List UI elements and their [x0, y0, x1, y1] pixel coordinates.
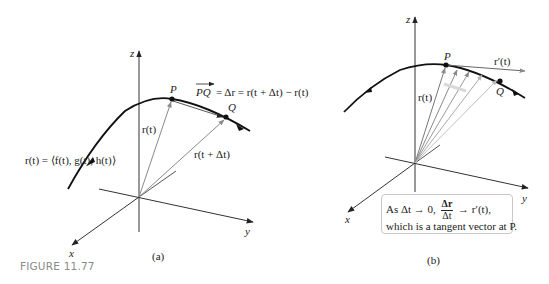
curve-direction-arrow-b1 — [364, 87, 372, 93]
x-axis-a — [72, 197, 139, 245]
figure-canvas — [0, 0, 549, 284]
note-suffix: → r′(t), — [458, 203, 491, 215]
panel-b — [344, 17, 528, 212]
point-p-a — [169, 96, 174, 101]
y-axis-label-a: y — [245, 226, 250, 237]
point-q-b — [497, 78, 502, 83]
vector-pq-a — [173, 101, 223, 117]
z-axis-label-b: z — [406, 14, 410, 25]
x-axis-label-a: x — [69, 248, 74, 259]
vector-r-prime-label-b: r′(t) — [494, 56, 510, 67]
curve-direction-arrow-b2 — [512, 89, 519, 96]
delta-r-over-delta-t: Δr Δt — [441, 199, 454, 221]
note-line-1: As Δt → 0, Δr Δt → r′(t), — [386, 199, 491, 221]
vector-r-t-label-b: r(t) — [418, 92, 432, 103]
curve-label-a: r(t) = ⟨f(t), g(t), h(t)⟩ — [25, 155, 116, 166]
frac-numerator: Δr — [441, 199, 454, 211]
curve-a — [68, 98, 250, 189]
pq-equation-rhs: = Δr = r(t + Δt) − r(t) — [216, 87, 308, 98]
point-p-label-b: P — [444, 51, 451, 62]
note-line-2: which is a tangent vector at P. — [386, 220, 517, 232]
point-q-a — [223, 114, 228, 119]
point-q-label-a: Q — [228, 102, 236, 113]
x-axis-back-a — [139, 171, 176, 197]
point-p-b — [443, 62, 448, 67]
chord-arrows-b — [444, 84, 466, 91]
y-axis-a — [99, 189, 253, 222]
vector-r-t-label-a: r(t) — [142, 124, 156, 135]
figure-caption: FIGURE 11.77 — [20, 260, 95, 272]
note-prefix: As Δt → 0, — [386, 203, 436, 215]
secant-vector-b2 — [415, 72, 469, 163]
vector-r-t-b — [415, 68, 445, 163]
panel-a-sublabel: (a) — [152, 250, 164, 262]
vector-r-t-dt-label-a: r(t + Δt) — [194, 149, 230, 160]
point-q-label-b: Q — [496, 86, 504, 97]
pq-equation-lhs: PQ — [196, 87, 211, 98]
y-axis-b — [385, 157, 528, 188]
tangent-note-box: As Δt → 0, Δr Δt → r′(t), which is a tan… — [381, 194, 513, 234]
y-axis-label-b: y — [522, 193, 527, 204]
z-axis-label-a: z — [130, 48, 134, 59]
x-axis-label-b: x — [345, 214, 350, 225]
point-p-label-a: P — [170, 84, 177, 95]
panel-b-sublabel: (b) — [427, 254, 440, 266]
